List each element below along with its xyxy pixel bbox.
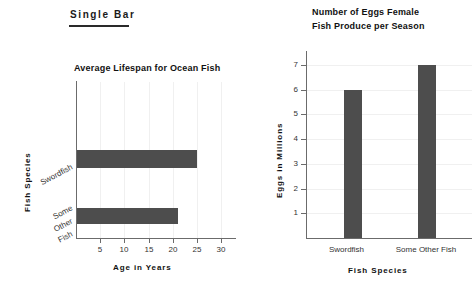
x-axis-label: Fish Species (348, 266, 408, 275)
x-tick-label: 25 (187, 245, 207, 254)
gridline (306, 189, 472, 190)
y-tick (301, 114, 306, 115)
chart-left-plot-area (76, 82, 236, 238)
y-tick (301, 139, 306, 140)
gridline (306, 65, 472, 66)
x-tick-label: 5 (90, 245, 110, 254)
y-axis-label: Eggs in Millions (275, 123, 284, 198)
x-tick (173, 239, 174, 243)
chart-average-lifespan: Average Lifespan for Ocean Fish (0, 0, 250, 292)
y-tick (301, 213, 306, 214)
chart-right-plot-area (306, 55, 472, 238)
gridline (306, 114, 472, 115)
chart-left-title: Average Lifespan for Ocean Fish (74, 62, 220, 75)
y-tick-label: 6 (286, 85, 298, 94)
category-label-swordfish: Swordfish (314, 245, 379, 254)
gridline (306, 213, 472, 214)
y-tick (301, 164, 306, 165)
x-axis-label: Age in Years (113, 263, 172, 272)
x-tick (221, 239, 222, 243)
y-tick-label: 7 (286, 60, 298, 69)
chart-right-title-line-2: Fish Produce per Season (312, 20, 425, 33)
y-tick-label: 3 (286, 159, 298, 168)
gridline (306, 164, 472, 165)
y-tick (301, 65, 306, 66)
category-label-swordfish: Swordfish (1, 163, 74, 208)
x-axis-line (306, 238, 472, 239)
x-tick-label: 10 (114, 245, 134, 254)
gridline (221, 82, 222, 238)
bar-some-other-fish (418, 65, 436, 238)
y-axis-line (306, 51, 307, 238)
x-tick (124, 239, 125, 243)
y-tick (301, 90, 306, 91)
figure-canvas: Single Bar Average Lifespan for Ocean Fi… (0, 0, 475, 292)
y-tick (301, 189, 306, 190)
y-tick-label: 5 (286, 109, 298, 118)
y-tick-label: 2 (286, 184, 298, 193)
y-tick-label: 1 (286, 208, 298, 217)
chart-eggs-per-season: Number of Eggs Female Fish Produce per S… (250, 0, 475, 292)
category-label-some-other-fish: Some Other Fish (385, 245, 467, 254)
x-tick-label: 20 (163, 245, 183, 254)
x-tick-label: 30 (211, 245, 231, 254)
bar-swordfish (344, 90, 362, 238)
bar-some-other-fish (76, 208, 178, 224)
x-tick (100, 239, 101, 243)
gridline (306, 139, 472, 140)
y-axis-line (76, 81, 77, 238)
gridline (306, 90, 472, 91)
x-tick (197, 239, 198, 243)
chart-right-title-line-1: Number of Eggs Female (312, 6, 419, 19)
y-tick-label: 4 (286, 134, 298, 143)
gridline (197, 82, 198, 238)
x-tick-label: 15 (139, 245, 159, 254)
x-tick (149, 239, 150, 243)
bar-swordfish (76, 150, 197, 168)
